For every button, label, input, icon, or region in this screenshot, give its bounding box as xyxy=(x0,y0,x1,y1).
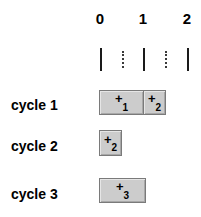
op-subscript: 1 xyxy=(123,102,129,113)
axis-label-0: 0 xyxy=(90,10,110,28)
op-symbol: + xyxy=(148,91,156,106)
op-label-cycle1-1: +1 xyxy=(115,94,128,111)
axis-tick-minor-3 xyxy=(165,51,167,68)
row-label-cycle-2: cycle 2 xyxy=(11,138,58,154)
axis-label-2: 2 xyxy=(177,10,197,28)
op-subscript: 2 xyxy=(156,102,162,113)
op-box-cycle1-1: +1 xyxy=(99,90,144,115)
axis-label-1: 1 xyxy=(133,10,153,28)
axis-tick-major-4 xyxy=(187,48,189,71)
op-label-cycle1-2: +2 xyxy=(148,94,161,111)
op-box-cycle3-1: +3 xyxy=(99,178,146,203)
axis-tick-major-0 xyxy=(100,48,102,71)
op-symbol: + xyxy=(115,91,123,106)
axis-tick-minor-1 xyxy=(122,51,124,68)
op-subscript: 3 xyxy=(124,190,130,201)
op-label-cycle3-1: +3 xyxy=(116,182,129,199)
axis-tick-major-2 xyxy=(143,48,145,71)
op-box-cycle2-1: +2 xyxy=(99,130,122,156)
cycle-timing-diagram: 012 cycle 1+1+2cycle 2+2cycle 3+3 xyxy=(0,0,201,217)
row-label-cycle-3: cycle 3 xyxy=(11,186,58,202)
op-symbol: + xyxy=(116,179,124,194)
op-symbol: + xyxy=(104,132,112,147)
op-subscript: 2 xyxy=(112,142,118,153)
op-label-cycle2-1: +2 xyxy=(104,135,117,152)
op-box-cycle1-2: +2 xyxy=(143,90,166,115)
row-label-cycle-1: cycle 1 xyxy=(11,97,58,113)
